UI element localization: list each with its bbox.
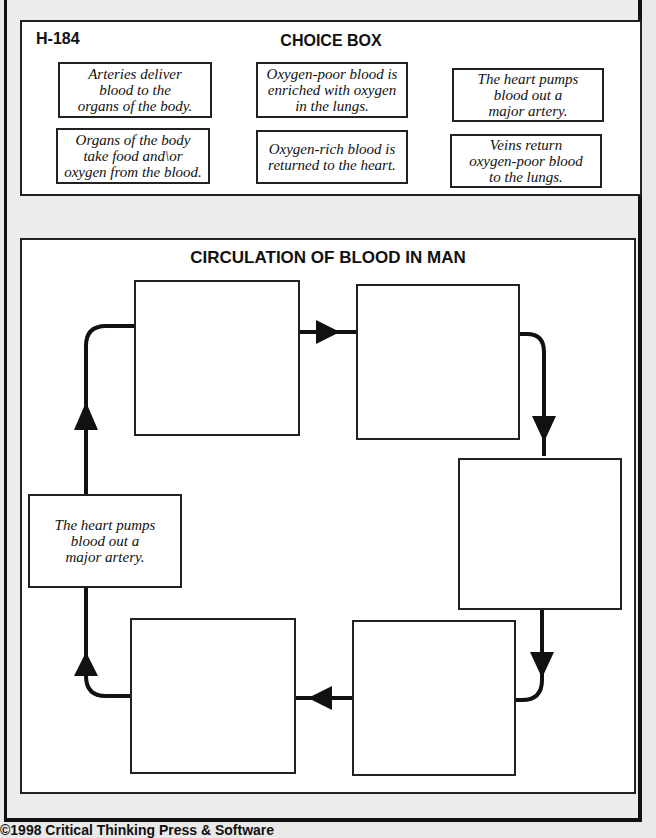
arrow-left-icon — [308, 686, 332, 710]
copyright-footer: ©1998 Critical Thinking Press & Software — [0, 822, 274, 838]
choice-card[interactable]: Oxygen-poor blood is enriched with oxyge… — [256, 62, 408, 118]
arrow-down-icon — [530, 652, 554, 678]
answer-box-top-right[interactable] — [356, 284, 520, 440]
choice-card[interactable]: Arteries deliver blood to the organs of … — [58, 62, 212, 118]
answer-box-right-middle[interactable] — [458, 458, 622, 610]
arrow-right-icon — [316, 320, 340, 344]
diagram-panel: CIRCULATION OF BLOOD IN MAN — [20, 238, 636, 794]
choice-card[interactable]: Organs of the body take food and\or oxyg… — [56, 128, 210, 184]
answer-box-bottom-right[interactable] — [352, 620, 516, 776]
answer-box-left-middle: The heart pumps blood out a major artery… — [28, 494, 182, 588]
choice-card[interactable]: The heart pumps blood out a major artery… — [452, 68, 604, 122]
choice-box-panel: H-184 CHOICE BOX Arteries deliver blood … — [20, 20, 642, 196]
answer-box-top-left[interactable] — [134, 280, 300, 436]
choice-box-title: CHOICE BOX — [22, 32, 640, 50]
arrow-up-icon — [74, 652, 98, 676]
choice-card[interactable]: Veins return oxygen-poor blood to the lu… — [450, 134, 602, 188]
choice-card[interactable]: Oxygen-rich blood is returned to the hea… — [256, 130, 408, 184]
answer-box-bottom-left[interactable] — [130, 618, 296, 774]
arrow-up-icon — [74, 402, 98, 430]
arrow-down-icon — [532, 416, 556, 442]
